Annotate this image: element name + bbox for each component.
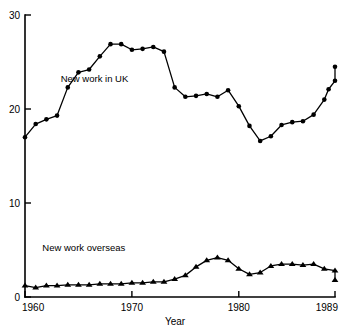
data-point-marker (151, 45, 156, 50)
data-point-marker (23, 135, 28, 140)
data-point-marker (290, 120, 295, 125)
data-point-marker (236, 104, 241, 109)
data-point-marker (226, 88, 231, 93)
data-point-marker (55, 113, 60, 118)
x-tick-label-1989: 1989 (316, 302, 339, 313)
data-point-marker (326, 87, 331, 92)
data-point-marker (322, 97, 327, 102)
data-point-marker (204, 92, 209, 97)
data-point-marker (258, 139, 263, 144)
data-point-marker (172, 85, 177, 90)
overseas-line-path (25, 258, 335, 288)
y-tick-label-0: 0 (14, 292, 20, 303)
data-point-marker (247, 124, 252, 129)
y-tick-label-10: 10 (9, 198, 21, 209)
data-point-marker (269, 134, 274, 139)
data-point-marker (108, 42, 113, 47)
data-point-marker (33, 122, 38, 127)
data-point-marker (119, 42, 124, 47)
uk-series-annotation: New work in UK (61, 73, 129, 84)
x-axis-ticks (25, 291, 335, 297)
data-point-marker (214, 254, 221, 259)
data-point-marker (183, 94, 188, 99)
data-point-marker (257, 269, 264, 274)
data-point-marker (98, 54, 103, 59)
overseas-markers (22, 254, 339, 289)
data-point-marker (194, 94, 199, 99)
chart-container: 0102030 1960197019801989 New work in UK … (0, 0, 350, 328)
data-point-marker (311, 112, 316, 117)
x-tick-label-1980: 1980 (228, 302, 251, 313)
data-point-marker (44, 117, 49, 122)
y-tick-label-30: 30 (9, 10, 21, 21)
data-point-marker (162, 49, 167, 54)
data-point-marker (310, 261, 317, 266)
x-axis-title: Year (165, 316, 186, 327)
overseas-series-annotation: New work overseas (42, 242, 125, 253)
data-point-marker (193, 264, 200, 269)
data-point-marker (87, 67, 92, 72)
y-axis-tick-labels: 0102030 (9, 10, 21, 303)
data-point-marker (333, 64, 338, 69)
data-point-marker (333, 79, 338, 84)
data-point-marker (332, 277, 339, 282)
y-axis-ticks (25, 15, 31, 297)
line-chart-svg: 0102030 1960197019801989 New work in UK … (0, 0, 350, 328)
y-tick-label-20: 20 (9, 104, 21, 115)
data-point-marker (130, 47, 135, 52)
series-new-work-overseas (22, 254, 339, 289)
data-point-marker (301, 119, 306, 124)
x-tick-label-1960: 1960 (22, 302, 45, 313)
data-point-marker (65, 85, 70, 90)
uk-line-path (25, 44, 335, 141)
data-point-marker (22, 283, 29, 288)
x-tick-label-1970: 1970 (121, 302, 144, 313)
series-new-work-in-uk (23, 42, 338, 143)
data-point-marker (279, 123, 284, 128)
x-axis-tick-labels: 1960197019801989 (22, 302, 338, 313)
data-point-marker (140, 47, 145, 52)
data-point-marker (215, 94, 220, 99)
